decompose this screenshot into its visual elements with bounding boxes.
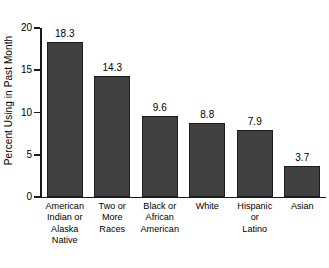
y-axis-tick-mark: [34, 154, 40, 156]
bar-value-label: 8.8: [181, 110, 233, 120]
bar-slot: 7.9: [237, 28, 273, 197]
x-axis-category-label: Black orAfricanAmerican: [133, 201, 187, 235]
bar: [94, 76, 130, 197]
plot-area: 18.314.39.68.87.93.7: [41, 28, 326, 197]
bar-value-label: 18.3: [39, 29, 91, 39]
bar-slot: 9.6: [142, 28, 178, 197]
y-axis-tick-mark: [34, 69, 40, 71]
x-axis-category-label-line: Black or: [133, 201, 187, 212]
x-axis-category-label-line: Alaska: [38, 224, 92, 235]
x-axis-category-label: Two orMoreRaces: [86, 201, 140, 235]
y-axis-tick-label: 5: [6, 150, 32, 160]
bar-value-label: 3.7: [276, 153, 328, 163]
bar-value-label: 7.9: [229, 117, 281, 127]
bar-slot: 14.3: [94, 28, 130, 197]
y-axis-tick-label: 0: [6, 192, 32, 202]
x-axis-category-label: HispanicorLatino: [228, 201, 282, 235]
bar-value-label: 14.3: [86, 63, 138, 73]
x-axis-category-label-line: Hispanic: [228, 201, 282, 212]
x-axis-category-label-line: Races: [86, 224, 140, 235]
x-axis-category-label-line: American: [38, 201, 92, 212]
x-axis-category-label-line: Latino: [228, 224, 282, 235]
x-axis-category-label-line: More: [86, 212, 140, 223]
x-axis-category-label-line: Native: [38, 235, 92, 246]
bar-chart: Percent Using in Past Month 20151050 18.…: [0, 0, 329, 268]
bar: [47, 42, 83, 197]
y-axis-tick-mark: [34, 112, 40, 114]
x-axis-category-label-line: Two or: [86, 201, 140, 212]
bar: [142, 116, 178, 197]
y-axis-tick-label: 20: [6, 23, 32, 33]
bar: [237, 130, 273, 197]
y-axis-tick-mark: [34, 196, 40, 198]
x-axis-category-label: AmericanIndian orAlaskaNative: [38, 201, 92, 247]
bar-value-label: 9.6: [134, 103, 186, 113]
x-axis-category-label-line: African: [133, 212, 187, 223]
y-axis-tick-label: 15: [6, 65, 32, 75]
x-axis-category-label-line: Indian or: [38, 212, 92, 223]
x-axis-category-label-line: Asian: [276, 201, 329, 212]
x-axis-category-label-line: American: [133, 224, 187, 235]
x-axis-category-label-line: White: [181, 201, 235, 212]
x-axis-category-label-line: or: [228, 212, 282, 223]
x-axis-category-labels: AmericanIndian orAlaskaNativeTwo orMoreR…: [41, 201, 326, 267]
bar-slot: 3.7: [284, 28, 320, 197]
x-axis-category-label: White: [181, 201, 235, 212]
bar-slot: 8.8: [189, 28, 225, 197]
x-axis-category-label: Asian: [276, 201, 329, 212]
bar: [284, 166, 320, 197]
y-axis-title-text: Percent Using in Past Month: [4, 35, 15, 164]
y-axis-tick-label: 10: [6, 108, 32, 118]
bar-slot: 18.3: [47, 28, 83, 197]
bar: [189, 123, 225, 197]
